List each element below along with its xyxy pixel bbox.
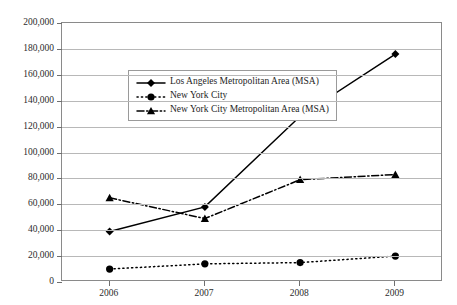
gridline bbox=[62, 127, 441, 128]
x-axis-tick bbox=[394, 281, 395, 286]
y-axis-tick-label: 200,000 bbox=[23, 17, 54, 27]
legend-item: New York City Metropolitan Area (MSA) bbox=[136, 102, 329, 116]
x-axis-tick bbox=[299, 281, 300, 286]
gridline bbox=[62, 256, 441, 257]
x-axis-tick-label: 2008 bbox=[290, 288, 309, 299]
legend-item: Los Angeles Metropolitan Area (MSA) bbox=[136, 74, 329, 88]
x-axis: 2006200720082009 bbox=[61, 281, 442, 305]
gridline bbox=[62, 75, 441, 76]
x-axis-tick bbox=[204, 281, 205, 286]
y-axis-tick-label: 20,000 bbox=[28, 250, 54, 260]
x-axis-tick-label: 2006 bbox=[99, 288, 118, 299]
gridline bbox=[62, 153, 441, 154]
y-axis-tick-label: 180,000 bbox=[23, 43, 54, 53]
data-point-marker bbox=[106, 265, 113, 272]
data-point-marker bbox=[201, 260, 208, 267]
y-axis-tick bbox=[57, 204, 62, 205]
line-chart: 200,000180,000160,000140,000120,000100,0… bbox=[0, 0, 457, 305]
data-point-marker bbox=[391, 50, 399, 58]
y-axis-tick-label: 40,000 bbox=[28, 224, 54, 234]
y-axis-tick bbox=[57, 230, 62, 231]
y-axis-tick bbox=[57, 49, 62, 50]
legend-item-label: New York City Metropolitan Area (MSA) bbox=[170, 103, 329, 115]
y-axis: 200,000180,000160,000140,000120,000100,0… bbox=[0, 0, 54, 305]
gridline bbox=[62, 230, 441, 231]
x-axis-tick bbox=[109, 281, 110, 286]
data-point-marker bbox=[106, 227, 114, 235]
series-line bbox=[110, 256, 396, 269]
y-axis-tick bbox=[57, 178, 62, 179]
y-axis-tick bbox=[57, 75, 62, 76]
y-axis-tick-label: 80,000 bbox=[28, 172, 54, 182]
legend-key-circle-icon bbox=[136, 89, 166, 101]
y-axis-tick-label: 100,000 bbox=[23, 147, 54, 157]
y-axis-tick bbox=[57, 256, 62, 257]
y-axis-tick bbox=[57, 153, 62, 154]
y-axis-tick bbox=[57, 101, 62, 102]
data-point-marker bbox=[297, 259, 304, 266]
gridline bbox=[62, 204, 441, 205]
y-axis-tick-label: 160,000 bbox=[23, 69, 54, 79]
x-axis-tick-label: 2007 bbox=[194, 288, 213, 299]
series-line bbox=[110, 175, 396, 219]
y-axis-tick-label: 140,000 bbox=[23, 95, 54, 105]
legend-key-diamond-icon bbox=[136, 75, 166, 87]
y-axis-tick-label: 60,000 bbox=[28, 198, 54, 208]
gridline bbox=[62, 178, 441, 179]
y-axis-tick bbox=[57, 127, 62, 128]
gridline bbox=[62, 49, 441, 50]
legend-item-label: Los Angeles Metropolitan Area (MSA) bbox=[170, 75, 319, 87]
y-axis-tick-label: 0 bbox=[49, 276, 54, 286]
y-axis-tick bbox=[57, 23, 62, 24]
x-axis-tick-label: 2009 bbox=[385, 288, 404, 299]
legend-key-triangle-icon bbox=[136, 103, 166, 115]
y-axis-tick-label: 120,000 bbox=[23, 121, 54, 131]
chart-legend: Los Angeles Metropolitan Area (MSA)New Y… bbox=[128, 70, 337, 121]
legend-item-label: New York City bbox=[170, 89, 227, 101]
plot-area: Los Angeles Metropolitan Area (MSA)New Y… bbox=[61, 22, 442, 281]
gridline bbox=[62, 101, 441, 102]
data-point-marker bbox=[106, 194, 114, 201]
